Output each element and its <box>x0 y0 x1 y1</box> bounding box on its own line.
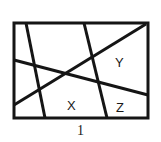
region-label-y: Y <box>115 56 124 69</box>
figure-caption: 1 <box>0 124 161 138</box>
region-label-z: Z <box>116 101 124 114</box>
line-figure-diagram <box>0 0 161 142</box>
region-label-x: X <box>67 99 76 112</box>
figure-container: X Y Z 1 <box>0 0 161 142</box>
